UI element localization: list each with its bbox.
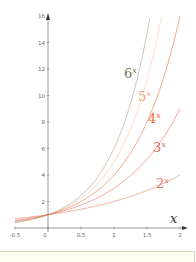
x-tick-label: 1.5: [143, 232, 152, 238]
label-4x: 4x: [148, 111, 161, 126]
x-axis-label: x: [170, 211, 178, 226]
y-tick-label: 2: [42, 199, 46, 205]
x-tick-label: 1: [112, 232, 116, 238]
label-5x: 5x: [138, 89, 151, 104]
y-tick-label: 14: [38, 40, 45, 46]
y-axis: 246810121416: [38, 13, 50, 232]
y-tick-label: 8: [42, 119, 46, 125]
x-tick-label: 2: [178, 232, 182, 238]
x-tick-label: 0.5: [77, 232, 86, 238]
y-tick-label: 4: [42, 172, 46, 178]
label-6x: 6x: [124, 66, 137, 81]
y-tick-label: 16: [38, 13, 45, 19]
x-tick-label: -0.5: [10, 232, 21, 238]
footer-panel: [0, 251, 195, 262]
label-3x: 3x: [153, 140, 166, 155]
label-2x: 2x: [156, 176, 169, 191]
y-tick-label: 6: [42, 146, 46, 152]
x-axis-arrow-icon: [182, 226, 188, 230]
curve-6x: [15, 19, 150, 223]
x-tick-label: 0: [43, 232, 47, 238]
y-axis-arrow-icon: [46, 13, 50, 20]
x-axis: -0.500.511.52: [10, 226, 188, 238]
curve-5x: [15, 17, 162, 222]
y-tick-label: 12: [38, 66, 45, 72]
y-tick-label: 10: [38, 93, 45, 99]
